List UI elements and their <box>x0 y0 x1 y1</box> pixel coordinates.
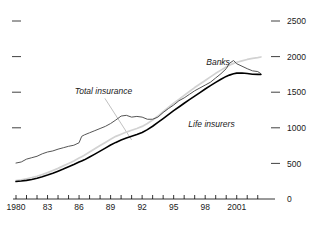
x-axis-label-2001: 2001 <box>227 202 246 212</box>
series-annotation-life-insurers: Life insurers <box>188 119 235 129</box>
y-axis-label-0: 0 <box>287 194 292 204</box>
left-axis-tick-marks <box>12 21 21 128</box>
y-axis-label-2500: 2500 <box>287 16 306 26</box>
x-axis-label-83: 83 <box>43 202 53 212</box>
x-axis-label-95: 95 <box>169 202 179 212</box>
series-annotation-total-insurance: Total insurance <box>75 86 133 96</box>
line-chart: 05001000150020002500 1980838689929598200… <box>0 0 322 230</box>
y-axis-label-1000: 1000 <box>287 123 306 133</box>
chart-container: 05001000150020002500 1980838689929598200… <box>0 0 322 230</box>
y-axis-label-500: 500 <box>287 159 301 169</box>
y-axis-label-1500: 1500 <box>287 87 306 97</box>
x-axis-label-86: 86 <box>74 202 84 212</box>
leader-line-total-insurance <box>105 98 132 140</box>
right-axis-tick-marks <box>271 21 280 163</box>
x-axis-label-1980: 1980 <box>7 202 26 212</box>
annotation-leader-lines <box>105 98 132 140</box>
x-axis-tick-marks <box>16 195 258 199</box>
series-annotation-banks: Banks <box>206 57 230 67</box>
x-axis-label-98: 98 <box>200 202 210 212</box>
x-axis-label-92: 92 <box>137 202 147 212</box>
x-axis-label-89: 89 <box>106 202 116 212</box>
right-axis-labels: 05001000150020002500 <box>287 16 306 204</box>
x-axis-labels: 19808386899295982001 <box>7 202 247 212</box>
y-axis-label-2000: 2000 <box>287 52 306 62</box>
series-line-banks <box>16 61 261 164</box>
